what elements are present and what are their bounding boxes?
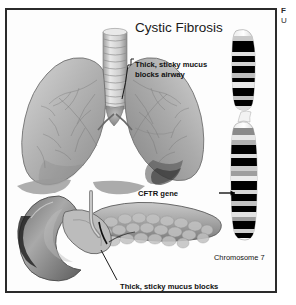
figure-root: F U [0, 0, 296, 305]
liver-fragment-left [17, 179, 71, 194]
anatomy-illustration [7, 10, 277, 293]
trachea-icon [103, 28, 127, 110]
leader-line-ducts [101, 250, 117, 280]
illustration-panel: Cystic Fibrosis Thick, sticky mucus bloc… [5, 8, 277, 293]
pancreas-illustration [17, 179, 221, 281]
callout-airway: Thick, sticky mucus blocks airway [135, 60, 207, 79]
outside-caption-line2: U [281, 16, 296, 26]
outside-caption: F U [281, 6, 296, 25]
chromosome-label: Chromosome 7 [214, 253, 265, 262]
cftr-gene-label: CFTR gene [138, 189, 178, 199]
chromosome-bands-q [227, 128, 261, 238]
page-title: Cystic Fibrosis [119, 20, 239, 35]
callout-airway-line1: Thick, sticky mucus [135, 60, 207, 70]
callout-ducts: Thick, sticky mucus blocks pancreatic an… [120, 282, 218, 293]
callout-airway-line2: blocks airway [135, 70, 207, 80]
outside-caption-line1: F [281, 6, 296, 16]
centromere [238, 111, 251, 122]
callout-ducts-line1: Thick, sticky mucus blocks [120, 282, 218, 292]
panel-background: Cystic Fibrosis Thick, sticky mucus bloc… [7, 10, 275, 291]
lungs-illustration [22, 28, 204, 186]
lung-left [22, 58, 106, 185]
callout-ducts-line2: pancreatic and bile ducts [120, 292, 218, 293]
chromosome-7-illustration [219, 30, 261, 240]
